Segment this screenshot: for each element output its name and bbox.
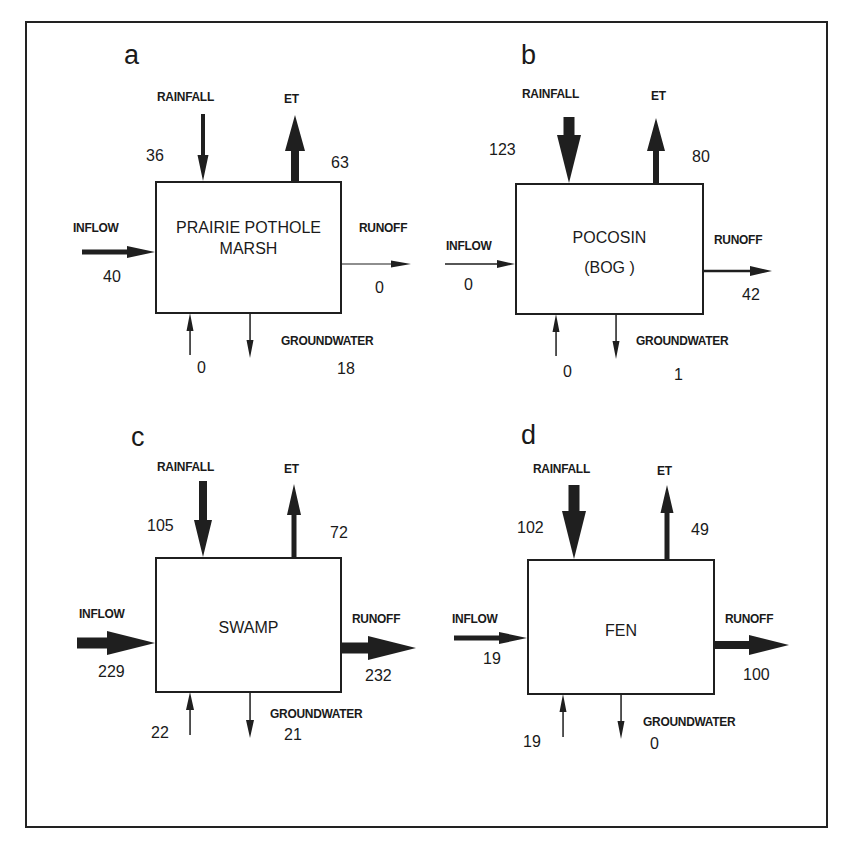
rainfall-value: 36 <box>146 148 164 164</box>
box-title-line-1: SWAMP <box>157 617 340 638</box>
groundwater-label: GROUNDWATER <box>281 334 373 347</box>
wetland-box-swamp: SWAMP <box>155 557 342 693</box>
groundwater-out-value: 0 <box>650 736 659 752</box>
et-value: 72 <box>330 525 348 541</box>
groundwater-in-value: 19 <box>523 734 541 750</box>
inflow-value: 19 <box>483 651 501 667</box>
panel-letter: d <box>521 422 536 449</box>
panel-letter: a <box>124 42 139 69</box>
box-title-line-2: (BOG ) <box>517 257 702 278</box>
runoff-label: RUNOFF <box>725 612 773 625</box>
inflow-value: 40 <box>103 269 121 285</box>
inflow-value: 229 <box>98 664 125 680</box>
groundwater-out-value: 18 <box>337 361 355 377</box>
runoff-label: RUNOFF <box>359 221 407 234</box>
et-value: 80 <box>692 149 710 165</box>
groundwater-in-value: 22 <box>151 725 169 741</box>
rainfall-label: RAINFALL <box>533 462 590 475</box>
et-value: 63 <box>331 155 349 171</box>
groundwater-out-value: 21 <box>284 727 302 743</box>
et-value: 49 <box>691 522 709 538</box>
groundwater-label: GROUNDWATER <box>636 334 728 347</box>
runoff-value: 42 <box>742 287 760 303</box>
groundwater-label: GROUNDWATER <box>643 715 735 728</box>
groundwater-label: GROUNDWATER <box>270 707 362 720</box>
rainfall-value: 102 <box>517 520 544 536</box>
wetland-box-fen: FEN <box>527 559 715 695</box>
runoff-value: 0 <box>375 280 384 296</box>
wetland-box-prairie-pothole-marsh: PRAIRIE POTHOLE MARSH <box>155 181 342 314</box>
runoff-value: 100 <box>743 667 770 683</box>
box-title-line-2: MARSH <box>157 238 340 259</box>
runoff-label: RUNOFF <box>714 233 762 246</box>
box-title-line-1: FEN <box>529 620 713 641</box>
panel-letter: c <box>131 424 145 451</box>
wetland-box-pocosin: POCOSIN (BOG ) <box>515 183 704 315</box>
rainfall-value: 123 <box>489 142 516 158</box>
inflow-label: INFLOW <box>79 607 125 620</box>
rainfall-label: RAINFALL <box>157 90 214 103</box>
groundwater-out-value: 1 <box>674 367 683 383</box>
et-label: ET <box>651 89 666 102</box>
box-title-line-1: POCOSIN <box>517 227 702 248</box>
groundwater-in-value: 0 <box>563 364 572 380</box>
runoff-label: RUNOFF <box>352 612 400 625</box>
wetland-water-budget-figure: a RAINFALL ET 36 63 INFLOW 40 RUNOFF 0 G… <box>0 0 843 843</box>
rainfall-label: RAINFALL <box>157 460 214 473</box>
panel-letter: b <box>521 42 536 69</box>
inflow-label: INFLOW <box>73 221 119 234</box>
inflow-value: 0 <box>464 277 473 293</box>
figure-frame <box>25 21 828 828</box>
et-label: ET <box>284 92 299 105</box>
groundwater-in-value: 0 <box>197 360 206 376</box>
inflow-label: INFLOW <box>452 612 498 625</box>
et-label: ET <box>657 464 672 477</box>
rainfall-value: 105 <box>147 518 174 534</box>
et-label: ET <box>284 462 299 475</box>
inflow-label: INFLOW <box>446 239 492 252</box>
box-title-line-1: PRAIRIE POTHOLE <box>157 217 340 238</box>
rainfall-label: RAINFALL <box>522 87 579 100</box>
runoff-value: 232 <box>365 668 392 684</box>
